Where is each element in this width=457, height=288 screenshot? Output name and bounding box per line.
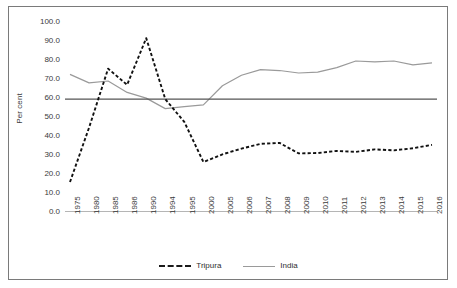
x-tick-label: 2006	[245, 196, 254, 214]
x-tick-label: 2013	[378, 196, 387, 214]
legend-swatch-solid-icon	[243, 266, 275, 267]
x-tick-label: 2016	[435, 196, 444, 214]
x-tick-label: 1980	[92, 196, 101, 214]
series-line-india	[70, 61, 432, 109]
series-line-tripura	[70, 38, 432, 182]
legend-item-india[interactable]: India	[243, 262, 297, 270]
x-tick-label: 2012	[359, 196, 368, 214]
x-tick-label: 1986	[130, 196, 139, 214]
x-tick-label: 2008	[283, 196, 292, 214]
x-tick-label: 2009	[302, 196, 311, 214]
legend-item-tripura[interactable]: Tripura	[159, 262, 221, 270]
x-tick-label: 2000	[207, 196, 216, 214]
x-tick-label: 1994	[168, 196, 177, 214]
x-tick-label: 2014	[397, 196, 406, 214]
x-tick-label: 2005	[226, 196, 235, 214]
x-tick-label: 2007	[264, 196, 273, 214]
x-tick-label: 1985	[111, 196, 120, 214]
x-tick-label: 1975	[73, 196, 82, 214]
x-tick-label: 2011	[340, 197, 349, 214]
x-tick-label: 1995	[188, 196, 197, 214]
legend-label-tripura: Tripura	[196, 262, 221, 270]
legend-label-india: India	[280, 262, 297, 270]
x-tick-label: 1990	[149, 196, 158, 214]
chart-svg	[0, 0, 457, 288]
x-tick-label: 2010	[321, 196, 330, 214]
chart-plot-container: Per cent 100.0 90.0 80.0 70.0 60.0 50.0 …	[0, 0, 457, 288]
legend-swatch-dashed-icon	[159, 265, 191, 267]
chart-legend: Tripura India	[0, 262, 457, 270]
chart-screenshot: Per cent 100.0 90.0 80.0 70.0 60.0 50.0 …	[0, 0, 457, 288]
x-tick-label: 2015	[416, 196, 425, 214]
